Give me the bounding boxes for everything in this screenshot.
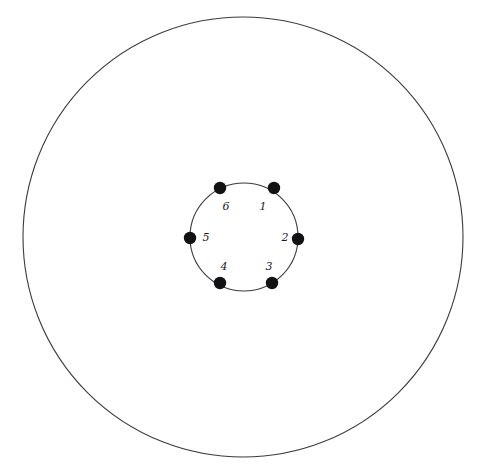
node-dot-2: [292, 233, 304, 245]
outer-circle: [23, 17, 463, 457]
node-label-5: 5: [203, 231, 210, 244]
node-label-1: 1: [260, 200, 267, 213]
node-label-2: 2: [281, 231, 289, 244]
node-label-6: 6: [223, 200, 230, 213]
node-dot-6: [214, 182, 226, 194]
node-dot-3: [266, 277, 278, 289]
node-dot-1: [268, 182, 280, 194]
concentric-circles-figure: 123456: [0, 0, 487, 472]
node-label-3: 3: [266, 260, 273, 273]
diagram-canvas: 123456: [0, 0, 487, 472]
node-dot-5: [184, 232, 196, 244]
node-dot-4: [214, 277, 226, 289]
node-label-4: 4: [220, 260, 228, 273]
node-group: 123456: [184, 182, 304, 289]
